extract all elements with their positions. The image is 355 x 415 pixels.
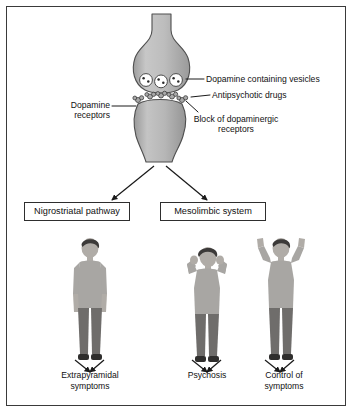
callout-block-receptors-line2: receptors <box>176 124 296 135</box>
outcome-caption-control-line1: Control of <box>243 370 325 380</box>
figure-hands-to-head-man <box>175 244 239 364</box>
outcome-caption-extrapyramidal-line1: Extrapyramidal <box>42 370 138 380</box>
figure-standing-man <box>58 236 122 364</box>
outcome-caption-control-line2: symptoms <box>243 381 325 391</box>
callout-block-receptors-line1: Block of dopaminergic <box>176 114 296 125</box>
outcome-caption-psychosis-line1: Psychosis <box>166 370 248 380</box>
callout-antipsychotic-drugs: Antipsychotic drugs <box>212 90 287 101</box>
figure-arms-raised-man <box>248 236 314 364</box>
callout-dopamine-receptors-line2: receptors <box>50 110 110 121</box>
callout-dopamine-vesicles: Dopamine containing vesicles <box>206 74 320 85</box>
pathway-box-nigrostriatal[interactable]: Nigrostriatal pathway <box>24 202 130 221</box>
pathway-label-mesolimbic: Mesolimbic system <box>174 206 252 217</box>
outcome-caption-extrapyramidal-line2: symptoms <box>42 381 138 391</box>
pathway-box-mesolimbic[interactable]: Mesolimbic system <box>160 202 266 221</box>
pathway-label-nigrostriatal: Nigrostriatal pathway <box>34 206 120 217</box>
callout-dopamine-receptors-line1: Dopamine <box>50 100 110 111</box>
